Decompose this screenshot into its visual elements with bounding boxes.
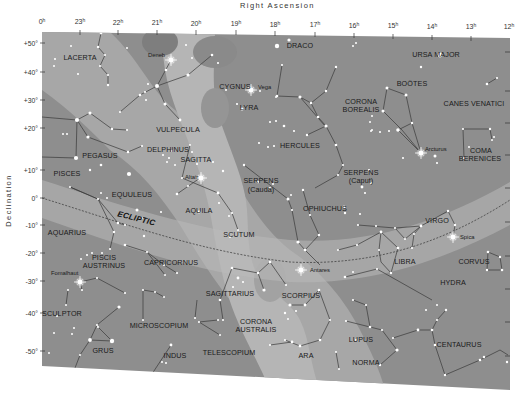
constellation-label: (Caput) [349, 177, 374, 185]
constellation-label: SCUTUM [223, 231, 254, 239]
constellation-label: BOREALIS [343, 106, 380, 114]
constellation-label: TELESCOPIUM [203, 349, 256, 357]
star-name-label: Vega [258, 84, 271, 90]
star-name-label: Arcturus [425, 146, 447, 152]
dark-lane [193, 36, 237, 68]
constellation-label: INDUS [164, 352, 187, 360]
constellation-label: EQUULEUS [112, 191, 152, 199]
constellation-label: DELPHINUS [147, 146, 189, 154]
constellation-label: AQUARIUS [48, 229, 86, 237]
constellation-label: LIBRA [394, 258, 415, 266]
constellation-label: (Cauda) [248, 186, 275, 194]
constellation-label: SAGITTARIUS [206, 290, 255, 298]
constellation-label: HERCULES [280, 142, 320, 150]
constellation-label: CAPRICORNUS [144, 259, 198, 267]
constellation-label: AUSTRINUS [83, 262, 125, 270]
constellation-label: GRUS [92, 347, 113, 355]
constellation-label: AUSTRALIS [236, 326, 277, 334]
constellation-label: PISCES [54, 170, 81, 178]
constellation-label: PEGASUS [82, 152, 117, 160]
constellation-label: CENTAURUS [436, 341, 481, 349]
constellation-label: CANES VENATICI [444, 100, 505, 108]
constellation-label: SCULPTOR [42, 310, 82, 318]
constellation-label: URSA MAJOR [412, 51, 460, 59]
constellation-label: NORMA [352, 359, 379, 367]
constellation-label: SAGITTA [181, 156, 212, 164]
constellation-label: OPHIUCHUS [303, 205, 347, 213]
star-name-label: Fomalhaut [51, 270, 78, 276]
constellation-label: VIRGO [425, 217, 449, 225]
constellation-label: AQUILA [186, 207, 213, 215]
dark-lane [201, 88, 229, 128]
constellation-label: SCORPIUS [282, 292, 320, 300]
constellation-label: ARA [298, 352, 313, 360]
star-name-label: Altair [185, 174, 198, 180]
constellation-label: CORVUS [458, 258, 489, 266]
constellation-label: LUPUS [349, 336, 373, 344]
constellation-label: HYDRA [440, 279, 466, 287]
constellation-label: SERPENS [243, 177, 278, 185]
constellation-label: LACERTA [63, 54, 96, 62]
constellation-label: BERENICES [459, 155, 501, 163]
star-name-label: Spica [460, 234, 475, 240]
constellation-label: BOÖTES [397, 80, 428, 88]
star-name-label: Deneb [148, 52, 165, 58]
constellation-label: LYRA [240, 104, 259, 112]
constellation-label: VULPECULA [156, 126, 200, 134]
star-name-label: Antares [310, 267, 330, 273]
constellation-label: CYGNUS [219, 83, 250, 91]
constellation-label: MICROSCOPIUM [130, 322, 189, 330]
constellation-label: DRACO [287, 42, 313, 50]
